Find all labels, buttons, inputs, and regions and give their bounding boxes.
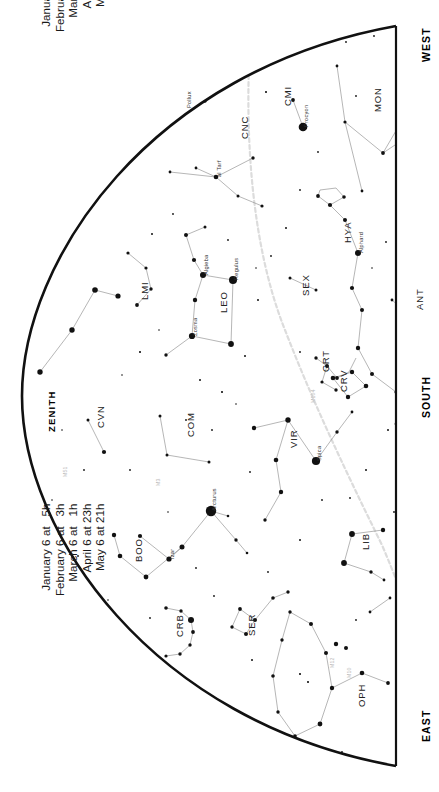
star-label-zosma: Zosma — [192, 318, 198, 336]
constellation-label-cmi: CMI — [282, 86, 293, 106]
sky-map-canvas — [0, 0, 439, 792]
double-star-pair — [334, 642, 348, 650]
star-label-alphard: Alphard — [358, 232, 364, 253]
constellation-label-mon: MON — [372, 87, 383, 112]
star-label-al-tarf: al Tarf — [216, 160, 222, 177]
constellation-label-lib: LIB — [360, 533, 371, 550]
star-label-regulus: Regulus — [233, 258, 239, 280]
constellation-label-cvn: CVN — [95, 405, 106, 428]
constellation-label-sex: SEX — [300, 274, 311, 296]
star-field — [37, 35, 425, 763]
constellation-label-vir: VIR — [288, 429, 299, 448]
star-label-algieba: Algieba — [203, 255, 209, 275]
dso-label-m3: M3 — [155, 478, 161, 486]
constellation-label-crt: CRT — [320, 350, 331, 372]
constellation-label-hya: HYA — [342, 221, 353, 243]
star-label-izar: Izar — [169, 549, 175, 559]
dso-label-m104: M104 — [310, 389, 316, 403]
constellation-label-oph: OPH — [356, 684, 367, 707]
star-label-pollux: Pollux — [186, 91, 192, 108]
constellation-label-crv: CRV — [338, 369, 349, 392]
constellation-label-leo: LEO — [218, 291, 229, 313]
direction-label-west: WEST — [420, 27, 432, 62]
ecliptic-line — [248, 26, 412, 622]
direction-label-zenith: ZENITH — [46, 390, 57, 432]
horizon-arc — [22, 26, 396, 766]
dso-label-m10: M10 — [346, 667, 352, 678]
upper-time-block: January 21 at 4h February 21 at 2h March… — [40, 0, 108, 32]
direction-label-south: SOUTH — [420, 376, 432, 418]
constellation-label-crb: CRB — [174, 614, 185, 637]
lower-time-block: January 6 at 5h February 6 at 3h March 6… — [40, 503, 108, 596]
direction-label-east: EAST — [420, 710, 432, 742]
star-chart: January 21 at 4h February 21 at 2h March… — [0, 0, 439, 792]
star-label-arcturus: Arcturus — [211, 488, 217, 511]
constellation-label-ant: ANT — [414, 288, 425, 310]
star-label-procyon: Procyon — [303, 105, 309, 127]
constellation-label-ser: SER — [246, 614, 257, 636]
sky-field — [37, 26, 425, 764]
dso-label-m51: M51 — [62, 466, 68, 477]
constellation-label-lmi: LMI — [139, 281, 150, 300]
constellation-label-cnc: CNC — [239, 116, 250, 139]
constellation-label-boo: BOO — [133, 538, 144, 562]
star-label-spica: Spica — [316, 446, 322, 461]
constellation-label-com: COM — [185, 412, 196, 437]
dso-label-m12: M12 — [329, 657, 335, 668]
